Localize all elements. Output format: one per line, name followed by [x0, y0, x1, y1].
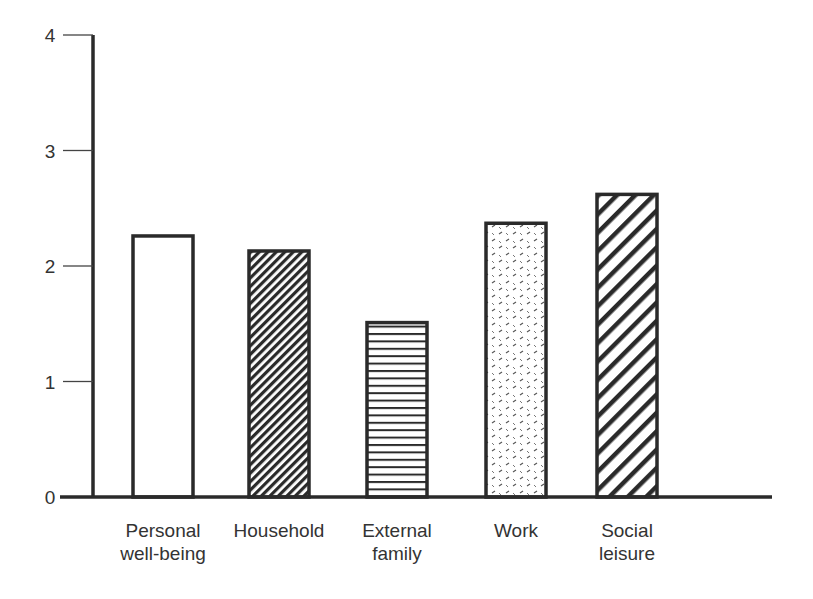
x-category-label-line: family [372, 543, 422, 564]
y-tick-label: 1 [45, 372, 56, 393]
bars [133, 194, 657, 497]
category-labels: Personalwell-beingHouseholdExternalfamil… [119, 520, 655, 564]
y-tick-label: 3 [45, 141, 56, 162]
x-category-label-line: Social [601, 520, 653, 541]
bar-personal-well-being [133, 236, 193, 497]
y-axis: 01234 [45, 25, 93, 508]
x-category-label: Socialleisure [599, 520, 655, 564]
bar-household [249, 251, 309, 497]
x-category-label-line: leisure [599, 543, 655, 564]
x-category-label-line: Work [494, 520, 538, 541]
y-tick-label: 2 [45, 256, 56, 277]
x-category-label: Externalfamily [362, 520, 432, 564]
x-category-label-line: External [362, 520, 432, 541]
y-tick-label: 0 [45, 487, 56, 508]
bar-chart: 01234 Personalwell-beingHouseholdExterna… [0, 0, 813, 599]
x-category-label: Work [494, 520, 538, 541]
y-tick-label: 4 [45, 25, 56, 46]
x-category-label: Personalwell-being [119, 520, 206, 564]
bar-external-family [367, 323, 427, 497]
x-category-label-line: Personal [126, 520, 201, 541]
x-category-label: Household [234, 520, 325, 541]
x-category-label-line: well-being [119, 543, 206, 564]
x-category-label-line: Household [234, 520, 325, 541]
bar-social-leisure [597, 194, 657, 497]
bar-work [486, 223, 546, 497]
